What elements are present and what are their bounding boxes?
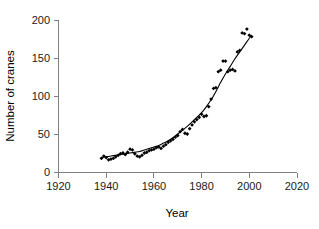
- y-tick-label: 150: [32, 52, 50, 64]
- y-tick-label: 100: [32, 90, 50, 102]
- x-tick-label: 1980: [189, 180, 213, 192]
- x-tick-label: 2000: [237, 180, 261, 192]
- scatter-plot: 050100150200 192019401960198020002020 Ye…: [0, 0, 319, 229]
- x-tick-label: 2020: [285, 180, 309, 192]
- x-tick-label: 1920: [46, 180, 70, 192]
- chart-background: [0, 0, 319, 229]
- x-axis-title: Year: [165, 207, 188, 219]
- chart-figure: 050100150200 192019401960198020002020 Ye…: [0, 0, 319, 229]
- x-tick-label: 1940: [94, 180, 118, 192]
- y-tick-label: 200: [32, 14, 50, 26]
- y-axis-title: Number of cranes: [4, 50, 16, 142]
- y-tick-label: 50: [38, 128, 50, 140]
- y-tick-label: 0: [44, 166, 50, 178]
- x-tick-label: 1960: [142, 180, 166, 192]
